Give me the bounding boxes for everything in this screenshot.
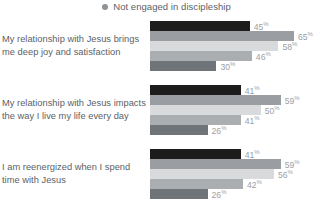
chart-legend: Not engaged in discipleship bbox=[0, 0, 333, 14]
bar-value-label: 46% bbox=[256, 51, 271, 61]
bar-row[interactable]: 42% bbox=[150, 179, 333, 189]
bar[interactable] bbox=[150, 61, 216, 71]
bar[interactable] bbox=[150, 115, 241, 125]
bar-value-number: 26 bbox=[212, 126, 222, 136]
bar-value-suffix: % bbox=[292, 41, 297, 47]
bar-row[interactable]: 45% bbox=[150, 21, 333, 31]
bar-row[interactable]: 59% bbox=[150, 95, 333, 105]
bar[interactable] bbox=[150, 41, 278, 51]
bar[interactable] bbox=[150, 189, 208, 199]
bar[interactable] bbox=[150, 125, 208, 135]
bar-value-label: 58% bbox=[282, 41, 297, 51]
bar-value-suffix: % bbox=[263, 21, 268, 27]
bar-group-bars: 45%65%58%46%30% bbox=[150, 21, 333, 71]
bar-group-bars: 41%59%50%41%26% bbox=[150, 85, 333, 135]
bar[interactable] bbox=[150, 159, 281, 169]
bar[interactable] bbox=[150, 31, 294, 41]
bar-row[interactable]: 46% bbox=[150, 51, 333, 61]
bar-value-suffix: % bbox=[307, 31, 312, 37]
bar[interactable] bbox=[150, 85, 241, 95]
bar-value-number: 26 bbox=[212, 190, 222, 200]
bar-value-label: 42% bbox=[247, 179, 262, 189]
bar-row[interactable]: 26% bbox=[150, 189, 333, 199]
bar-value-label: 26% bbox=[212, 125, 227, 135]
bar-value-label: 45% bbox=[254, 21, 269, 31]
bar-value-suffix: % bbox=[221, 189, 226, 195]
bar-value-suffix: % bbox=[288, 169, 293, 175]
bar[interactable] bbox=[150, 105, 261, 115]
bar-group: My relationship with Jesus impacts the w… bbox=[0, 78, 333, 142]
legend-item-label: Not engaged in discipleship bbox=[113, 2, 231, 12]
bar-value-label: 41% bbox=[245, 85, 260, 95]
bar-group-bars: 41%59%56%42%26% bbox=[150, 149, 333, 199]
bar-value-label: 65% bbox=[298, 31, 313, 41]
bar-value-suffix: % bbox=[230, 61, 235, 67]
bar-value-label: 50% bbox=[265, 105, 280, 115]
bar-value-suffix: % bbox=[254, 149, 259, 155]
bar-value-number: 30 bbox=[220, 62, 230, 72]
bar-value-label: 41% bbox=[245, 149, 260, 159]
bar[interactable] bbox=[150, 51, 252, 61]
bar-value-label: 26% bbox=[212, 189, 227, 199]
bar-value-suffix: % bbox=[221, 125, 226, 131]
grouped-bar-chart: Not engaged in discipleship My relations… bbox=[0, 0, 333, 207]
bar-group-label: My relationship with Jesus brings me dee… bbox=[0, 33, 150, 58]
legend-dot-icon bbox=[102, 4, 108, 10]
bar-row[interactable]: 59% bbox=[150, 159, 333, 169]
bar-row[interactable]: 58% bbox=[150, 41, 333, 51]
bar-row[interactable]: 65% bbox=[150, 31, 333, 41]
bar-group-label: I am reenergized when I spend time with … bbox=[0, 161, 150, 186]
bar-group-label: My relationship with Jesus impacts the w… bbox=[0, 97, 150, 122]
bar-row[interactable]: 41% bbox=[150, 85, 333, 95]
bar-row[interactable]: 41% bbox=[150, 115, 333, 125]
bar-group: My relationship with Jesus brings me dee… bbox=[0, 14, 333, 78]
bar-value-suffix: % bbox=[254, 115, 259, 121]
bar-value-suffix: % bbox=[265, 51, 270, 57]
bar[interactable] bbox=[150, 169, 274, 179]
bar-value-suffix: % bbox=[294, 95, 299, 101]
bar-value-label: 59% bbox=[285, 159, 300, 169]
bar[interactable] bbox=[150, 95, 281, 105]
bar-value-label: 56% bbox=[278, 169, 293, 179]
bar[interactable] bbox=[150, 179, 243, 189]
chart-plot-area: My relationship with Jesus brings me dee… bbox=[0, 14, 333, 206]
bar-value-suffix: % bbox=[274, 105, 279, 111]
bar-value-suffix: % bbox=[254, 85, 259, 91]
bar-value-label: 30% bbox=[220, 61, 235, 71]
bar[interactable] bbox=[150, 149, 241, 159]
bar-value-suffix: % bbox=[257, 179, 262, 185]
bar[interactable] bbox=[150, 21, 250, 31]
bar-value-suffix: % bbox=[294, 159, 299, 165]
bar-value-label: 59% bbox=[285, 95, 300, 105]
bar-row[interactable]: 30% bbox=[150, 61, 333, 71]
bar-group: I am reenergized when I spend time with … bbox=[0, 142, 333, 206]
bar-value-label: 41% bbox=[245, 115, 260, 125]
bar-row[interactable]: 50% bbox=[150, 105, 333, 115]
bar-row[interactable]: 41% bbox=[150, 149, 333, 159]
legend-item: Not engaged in discipleship bbox=[102, 2, 231, 12]
bar-row[interactable]: 26% bbox=[150, 125, 333, 135]
bar-row[interactable]: 56% bbox=[150, 169, 333, 179]
